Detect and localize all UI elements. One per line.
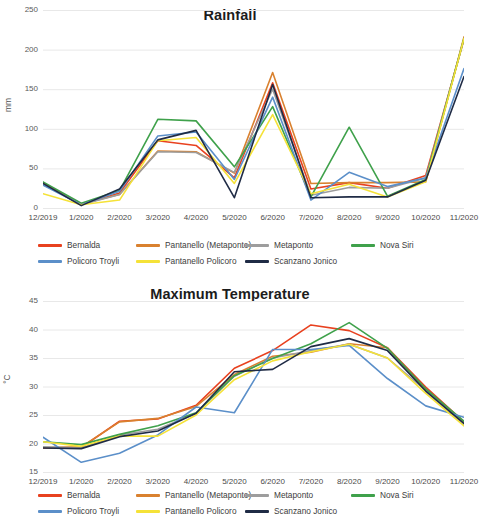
legend-label: Metaponto xyxy=(274,240,313,250)
legend-color-swatch xyxy=(351,494,375,497)
temperature-y-axis-label: °C xyxy=(2,364,12,394)
y-axis-tick-label: 20 xyxy=(12,440,38,448)
rainfall-y-axis-label: mm xyxy=(3,90,13,120)
legend-item[interactable]: Policoro Troyli xyxy=(38,504,119,518)
x-axis-tick-label: 11/2020 xyxy=(440,477,482,486)
legend-label: Pantanello (Metaponto) xyxy=(165,490,251,500)
series-line xyxy=(43,37,464,204)
legend-label: Pantanello Policoro xyxy=(165,506,237,516)
series-line xyxy=(43,323,464,445)
y-axis-tick-label: 0 xyxy=(12,204,38,212)
rainfall-chart: Rainfall mm 05010015020025012/20191/2020… xyxy=(0,0,482,280)
legend-color-swatch xyxy=(38,260,62,263)
y-axis-tick-label: 35 xyxy=(12,354,38,362)
legend-label: Bernalda xyxy=(67,490,100,500)
series-line xyxy=(43,77,464,206)
legend-label: Pantanello Policoro xyxy=(165,256,237,266)
temperature-chart-title: Maximum Temperature xyxy=(100,286,360,302)
legend-item[interactable]: Nova Siri xyxy=(351,238,414,252)
legend-color-swatch xyxy=(245,244,269,247)
rainfall-legend: BernaldaPantanello (Metaponto)MetapontoN… xyxy=(0,238,482,270)
legend-item[interactable]: Bernalda xyxy=(38,488,100,502)
y-axis-tick-label: 30 xyxy=(12,383,38,391)
y-axis-tick-label: 200 xyxy=(12,46,38,54)
legend-label: Policoro Troyli xyxy=(67,256,119,266)
legend-color-swatch xyxy=(38,244,62,247)
legend-item[interactable]: Nova Siri xyxy=(351,488,414,502)
legend-row: BernaldaPantanello (Metaponto)MetapontoN… xyxy=(0,238,482,252)
x-axis-tick-label: 11/2020 xyxy=(440,213,482,222)
chart-page: Rainfall mm 05010015020025012/20191/2020… xyxy=(0,0,482,524)
legend-row: Policoro TroyliPantanello PolicoroScanza… xyxy=(0,504,482,518)
legend-item[interactable]: Pantanello (Metaponto) xyxy=(136,238,251,252)
legend-color-swatch xyxy=(136,510,160,513)
legend-row: Policoro TroyliPantanello PolicoroScanza… xyxy=(0,254,482,268)
y-axis-tick-label: 50 xyxy=(12,164,38,172)
chart-canvas xyxy=(43,10,464,209)
y-axis-tick-label: 40 xyxy=(12,326,38,334)
y-axis-tick-label: 100 xyxy=(12,125,38,133)
legend-item[interactable]: Scanzano Jonico xyxy=(245,254,337,268)
series-line xyxy=(43,339,464,449)
legend-label: Policoro Troyli xyxy=(67,506,119,516)
rainfall-plot-area: 05010015020025012/20191/20202/20203/2020… xyxy=(43,10,464,208)
legend-color-swatch xyxy=(245,494,269,497)
legend-item[interactable]: Metaponto xyxy=(245,488,313,502)
legend-color-swatch xyxy=(136,260,160,263)
legend-label: Scanzano Jonico xyxy=(274,256,337,266)
temperature-chart: Maximum Temperature °C 1520253035404512/… xyxy=(0,281,482,524)
legend-label: Scanzano Jonico xyxy=(274,506,337,516)
chart-canvas xyxy=(43,301,464,473)
y-axis-tick-label: 250 xyxy=(12,6,38,14)
legend-item[interactable]: Metaponto xyxy=(245,238,313,252)
legend-item[interactable]: Policoro Troyli xyxy=(38,254,119,268)
y-axis-tick-label: 25 xyxy=(12,411,38,419)
legend-item[interactable]: Pantanello Policoro xyxy=(136,504,237,518)
legend-row: BernaldaPantanello (Metaponto)MetapontoN… xyxy=(0,488,482,502)
temperature-plot-area: 1520253035404512/20191/20202/20203/20204… xyxy=(43,301,464,472)
y-axis-tick-label: 150 xyxy=(12,85,38,93)
legend-item[interactable]: Pantanello Policoro xyxy=(136,254,237,268)
legend-color-swatch xyxy=(136,244,160,247)
legend-label: Bernalda xyxy=(67,240,100,250)
legend-label: Pantanello (Metaponto) xyxy=(165,240,251,250)
y-axis-tick-label: 45 xyxy=(12,297,38,305)
legend-item[interactable]: Pantanello (Metaponto) xyxy=(136,488,251,502)
legend-color-swatch xyxy=(245,260,269,263)
legend-color-swatch xyxy=(38,510,62,513)
legend-color-swatch xyxy=(351,244,375,247)
legend-item[interactable]: Scanzano Jonico xyxy=(245,504,337,518)
legend-label: Nova Siri xyxy=(380,490,414,500)
temperature-legend: BernaldaPantanello (Metaponto)MetapontoN… xyxy=(0,488,482,520)
legend-item[interactable]: Bernalda xyxy=(38,238,100,252)
legend-color-swatch xyxy=(245,510,269,513)
legend-color-swatch xyxy=(136,494,160,497)
legend-label: Metaponto xyxy=(274,490,313,500)
legend-color-swatch xyxy=(38,494,62,497)
legend-label: Nova Siri xyxy=(380,240,414,250)
y-axis-tick-label: 15 xyxy=(12,468,38,476)
